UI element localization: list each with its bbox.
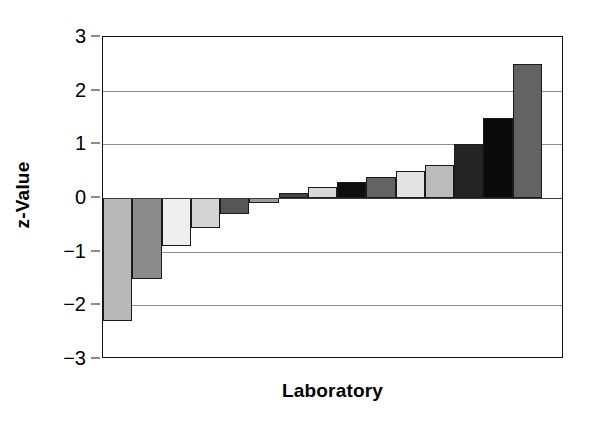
bar: [454, 144, 483, 198]
y-tick-label: −2: [63, 294, 86, 314]
plot-area: [102, 36, 563, 358]
bar: [308, 187, 337, 198]
bar: [396, 171, 425, 198]
y-tick-label: −3: [63, 348, 86, 368]
y-tick-mark: [91, 250, 100, 251]
bar: [103, 198, 132, 321]
y-tick-label: 1: [75, 133, 86, 153]
y-tick-label: −1: [63, 241, 86, 261]
bar: [513, 64, 542, 198]
x-axis-label: Laboratory: [102, 380, 563, 402]
y-tick-mark: [91, 36, 100, 37]
bar-series: [103, 37, 562, 357]
y-tick-label: 0: [75, 187, 86, 207]
zero-line: [103, 198, 562, 199]
y-tick-label: 3: [75, 26, 86, 46]
y-tick-mark: [91, 358, 100, 359]
y-axis-ticks: 3210−1−2−3: [0, 0, 100, 428]
y-tick-mark: [91, 197, 100, 198]
bar: [337, 182, 366, 198]
bar: [162, 198, 191, 246]
bar: [366, 177, 395, 198]
chart-figure: z-Value 3210−1−2−3 Laboratory: [0, 0, 594, 428]
bar: [132, 198, 161, 279]
y-tick-mark: [91, 89, 100, 90]
bar: [425, 165, 454, 198]
y-tick-mark: [91, 304, 100, 305]
y-tick-label: 2: [75, 80, 86, 100]
y-tick-mark: [91, 143, 100, 144]
bar: [220, 198, 249, 214]
bar: [483, 118, 512, 199]
bar: [191, 198, 220, 228]
